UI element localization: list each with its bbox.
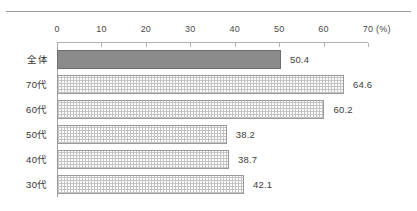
bar-chart-figure: 010203040506070(%) 全体50.470代64.660代60.25… xyxy=(0,0,417,211)
x-tick-label-40: 40 xyxy=(229,24,239,34)
category-label-40代: 40代 xyxy=(0,147,48,172)
category-label-70代: 70代 xyxy=(0,72,48,97)
x-axis-unit-label: (%) xyxy=(376,24,391,34)
x-tick-label-10: 10 xyxy=(96,24,106,34)
data-label-70代: 64.6 xyxy=(353,72,372,97)
data-label-40代: 38.7 xyxy=(238,147,257,172)
bar-row: 全体50.4 xyxy=(0,47,417,72)
x-tick-label-60: 60 xyxy=(318,24,328,34)
data-label-60代: 60.2 xyxy=(333,97,352,122)
top-divider-rule xyxy=(6,11,411,12)
bar-30代 xyxy=(57,175,244,194)
x-axis-line xyxy=(57,42,368,43)
bar-row: 50代38.2 xyxy=(0,122,417,147)
bar-70代 xyxy=(57,75,344,94)
bar-row: 70代64.6 xyxy=(0,72,417,97)
category-label-30代: 30代 xyxy=(0,172,48,197)
x-tick-label-20: 20 xyxy=(141,24,151,34)
x-tick-label-70: 70 xyxy=(363,24,373,34)
category-label-全体: 全体 xyxy=(0,47,48,72)
bar-60代 xyxy=(57,100,324,119)
data-label-全体: 50.4 xyxy=(290,47,309,72)
bar-50代 xyxy=(57,125,227,144)
bar-40代 xyxy=(57,150,229,169)
bar-全体 xyxy=(57,50,281,69)
data-label-30代: 42.1 xyxy=(253,172,272,197)
x-tick-label-0: 0 xyxy=(54,24,59,34)
bar-row: 30代42.1 xyxy=(0,172,417,197)
x-tick-label-50: 50 xyxy=(274,24,284,34)
data-label-50代: 38.2 xyxy=(236,122,255,147)
category-label-60代: 60代 xyxy=(0,97,48,122)
x-tick-label-30: 30 xyxy=(185,24,195,34)
bar-row: 60代60.2 xyxy=(0,97,417,122)
bar-row: 40代38.7 xyxy=(0,147,417,172)
category-label-50代: 50代 xyxy=(0,122,48,147)
